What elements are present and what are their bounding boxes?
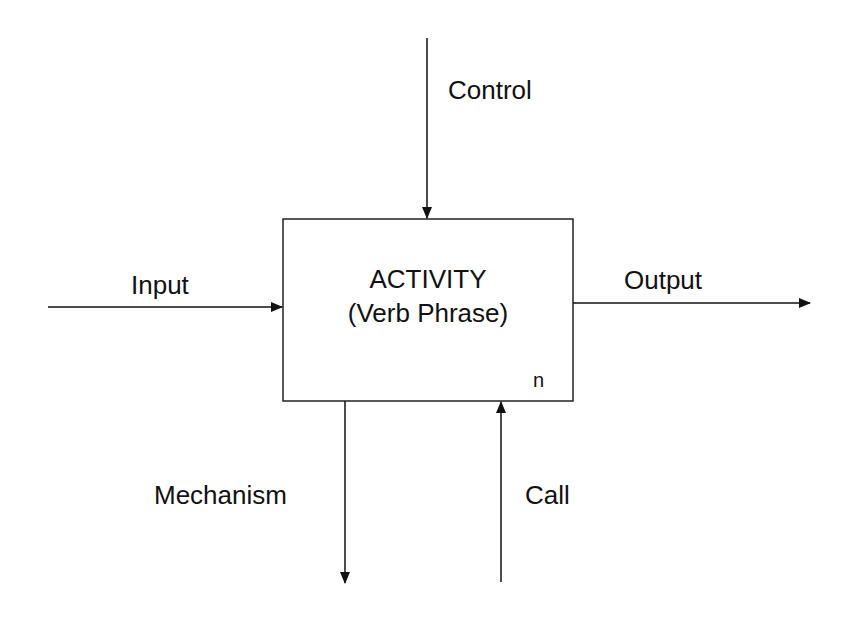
input-label: Input: [131, 272, 189, 298]
activity-label: ACTIVITY (Verb Phrase): [283, 262, 573, 330]
activity-title: ACTIVITY: [283, 262, 573, 296]
mechanism-label: Mechanism: [154, 482, 287, 508]
activity-subtitle: (Verb Phrase): [283, 296, 573, 330]
node-number: n: [533, 370, 544, 390]
output-label: Output: [624, 267, 702, 293]
control-label: Control: [448, 77, 532, 103]
call-label: Call: [525, 482, 570, 508]
